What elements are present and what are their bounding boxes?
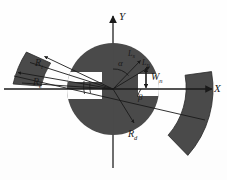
- figure-container: Y X α: [0, 0, 227, 180]
- wn-subscript: n: [159, 77, 162, 84]
- re-symbol: R: [32, 76, 39, 87]
- notch-left-lower: [60, 89, 102, 99]
- alpha-label: α: [118, 58, 123, 68]
- re-subscript: e: [39, 82, 42, 89]
- x-axis-label: X: [213, 82, 222, 94]
- geometry-diagram: Y X α: [0, 0, 227, 180]
- y-axis-label: Y: [119, 10, 127, 22]
- rd-subscript: d: [134, 134, 138, 141]
- ri-symbol: R: [34, 57, 41, 68]
- rd-label: Rd: [127, 128, 138, 141]
- ln-label: Ln: [141, 58, 150, 68]
- rd-symbol: R: [127, 128, 134, 139]
- beta-label: β: [137, 92, 143, 102]
- ln-subscript: n: [146, 61, 149, 68]
- wn-label: Wn: [151, 71, 163, 84]
- ri-subscript: i: [41, 63, 43, 70]
